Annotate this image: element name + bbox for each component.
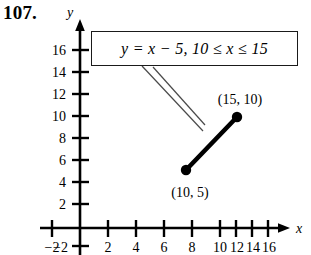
y-tick-label-16: 16 [52, 43, 66, 58]
x-tick-label-6: 6 [161, 240, 168, 255]
y-tick-label-10: 10 [52, 109, 66, 124]
x-tick-label-12: 12 [230, 240, 244, 255]
x-tick-label-neg2: −2 [45, 240, 60, 255]
endpoint-start-dot [181, 165, 191, 175]
y-tick-label-8: 8 [59, 131, 66, 146]
y-axis-label: y [65, 5, 74, 20]
point-label-start: (10, 5) [171, 185, 209, 201]
x-tick-label-4: 4 [133, 240, 140, 255]
figure-container: 107. [0, 0, 311, 255]
x-tick-label-16: 16 [262, 240, 276, 255]
x-tick-label-10: 10 [213, 240, 227, 255]
equation-text: y = x − 5, 10 ≤ x ≤ 15 [92, 32, 297, 65]
x-tick-label-2: 2 [105, 240, 112, 255]
endpoint-end-dot [232, 112, 242, 122]
x-axis-label: x [295, 221, 303, 236]
y-tick-label-14: 14 [52, 65, 66, 80]
point-label-end: (15, 10) [218, 92, 263, 108]
y-tick-label-2: 2 [59, 197, 66, 212]
x-tick-label-8: 8 [189, 240, 196, 255]
y-tick-label-6: 6 [59, 153, 66, 168]
y-tick-label-12: 12 [52, 87, 66, 102]
callout-leader-line [142, 66, 205, 131]
x-tick-label-14: 14 [246, 240, 260, 255]
y-tick-label-4: 4 [59, 175, 66, 190]
line-segment [181, 112, 242, 175]
equation-callout-box: y = x − 5, 10 ≤ x ≤ 15 [91, 31, 298, 66]
